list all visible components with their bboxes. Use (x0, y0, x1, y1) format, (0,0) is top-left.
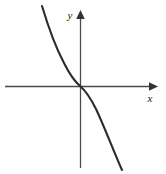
x-axis-label: x (147, 92, 153, 104)
y-axis-arrowhead-icon (76, 10, 85, 19)
x-axis-arrowhead-icon (149, 82, 158, 91)
cubic-graph-figure: y x (0, 0, 166, 174)
cubic-curve (42, 6, 122, 170)
graph-canvas: y x (0, 0, 166, 174)
y-axis-label: y (67, 9, 73, 21)
